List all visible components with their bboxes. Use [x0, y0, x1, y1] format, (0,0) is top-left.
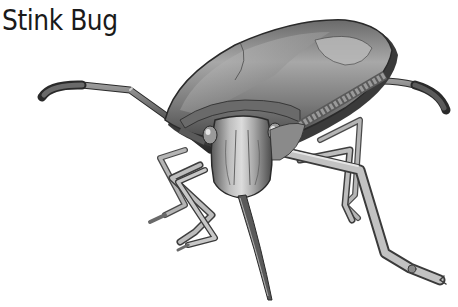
proboscis	[238, 195, 272, 300]
stink-bug-illustration	[0, 0, 458, 307]
front-leg-right	[275, 148, 446, 284]
stink-bug-figure: Stink Bug	[0, 0, 458, 307]
